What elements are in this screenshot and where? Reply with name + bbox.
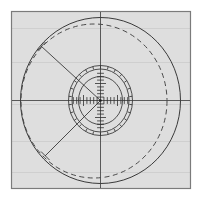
figure-root: [0, 0, 203, 201]
figure-canvas: [0, 0, 203, 201]
center-point: [99, 99, 102, 102]
